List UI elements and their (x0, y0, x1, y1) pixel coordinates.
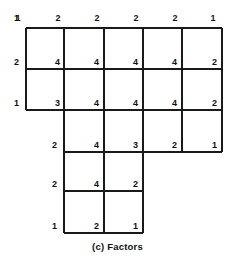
left-label-lower-0: 2 (43, 140, 57, 150)
cell-r2c5: 2 (203, 98, 217, 108)
figure-caption: (c) Factors (0, 241, 235, 252)
left-label-upper-1: 2 (5, 57, 19, 67)
cell-r3c4: 2 (163, 140, 177, 150)
cell-r4c3: 2 (124, 179, 138, 189)
cell-r1c2: 4 (85, 57, 99, 67)
grid-lines (0, 0, 235, 266)
cell-r1c3: 4 (124, 57, 138, 67)
top-label-5: 1 (206, 13, 220, 23)
cell-r4c2: 4 (85, 179, 99, 189)
top-label-2: 2 (90, 13, 104, 23)
cell-r3c2: 4 (85, 140, 99, 150)
left-label-lower-1: 2 (43, 179, 57, 189)
cell-r5c3: 1 (124, 221, 138, 231)
cell-r2c2: 4 (85, 98, 99, 108)
cell-r5c2: 2 (85, 221, 99, 231)
cell-r2c1: 3 (46, 98, 60, 108)
left-label-upper-2: 1 (5, 98, 19, 108)
cell-r3c3: 3 (124, 140, 138, 150)
cell-r2c4: 4 (163, 98, 177, 108)
cell-r3c5: 1 (203, 140, 217, 150)
left-label-upper-0: 1 (5, 13, 19, 23)
factors-figure: 1 2 2 2 2 1 1 2 1 2 2 1 4 4 4 4 2 3 4 4 … (0, 0, 235, 266)
cell-r2c3: 4 (124, 98, 138, 108)
cell-r1c1: 4 (46, 57, 60, 67)
top-label-4: 2 (168, 13, 182, 23)
top-label-3: 2 (129, 13, 143, 23)
top-label-1: 2 (51, 13, 65, 23)
cell-r1c4: 4 (163, 57, 177, 67)
cell-r1c5: 2 (203, 57, 217, 67)
left-label-lower-2: 1 (43, 221, 57, 231)
